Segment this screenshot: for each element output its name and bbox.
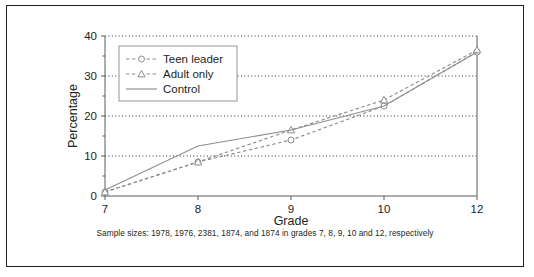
circle-marker: [288, 137, 294, 143]
legend-label: Control: [163, 83, 200, 95]
x-axis-ticks: 7891012: [102, 196, 484, 215]
y-axis-ticks: 010203040: [84, 30, 105, 202]
x-tick-label: 12: [471, 203, 484, 215]
legend-label: Adult only: [163, 68, 214, 80]
y-tick-label: 40: [84, 30, 97, 42]
triangle-marker: [380, 96, 387, 102]
x-tick-label: 7: [102, 203, 108, 215]
y-tick-label: 10: [84, 150, 97, 162]
figure-frame: 010203040 7891012 Percentage Grade Teen …: [6, 5, 524, 267]
figure-caption: Sample sizes: 1978, 1976, 2381, 1874, an…: [7, 228, 523, 238]
circle-marker: [139, 56, 145, 62]
chart-legend: Teen leaderAdult onlyControl: [119, 46, 237, 101]
y-tick-label: 30: [84, 70, 97, 82]
chart-plot-area: 010203040 7891012 Percentage Grade Teen …: [7, 6, 523, 266]
y-axis-title: Percentage: [66, 84, 80, 148]
y-tick-label: 0: [91, 190, 97, 202]
y-tick-label: 20: [84, 110, 97, 122]
x-tick-label: 10: [378, 203, 391, 215]
legend-label: Teen leader: [163, 53, 223, 65]
x-tick-label: 8: [195, 203, 201, 215]
x-axis-title: Grade: [274, 214, 309, 228]
